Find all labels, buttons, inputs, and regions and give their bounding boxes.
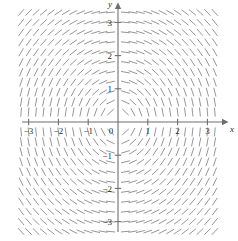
slope-mark: [34, 78, 37, 86]
slope-mark: [55, 30, 62, 36]
slope-mark: [41, 198, 47, 205]
slope-mark: [77, 59, 84, 64]
slope-mark: [26, 208, 32, 215]
slope-mark: [85, 89, 91, 96]
slope-mark: [197, 19, 203, 25]
slope-mark: [55, 229, 62, 234]
slope-mark: [198, 168, 202, 176]
slope-mark: [174, 10, 181, 15]
slope-mark: [48, 20, 55, 26]
slope-mark: [169, 128, 170, 137]
slope-mark: [207, 98, 209, 107]
slope-mark: [85, 70, 92, 75]
slope-mark: [144, 190, 152, 194]
slope-mark: [167, 59, 173, 66]
slope-mark: [106, 71, 115, 73]
slope-mark: [64, 148, 68, 156]
slope-mark: [121, 151, 130, 154]
slope-mark: [33, 19, 39, 25]
slope-mark: [205, 198, 210, 205]
slope-mark: [129, 61, 138, 64]
slope-mark: [27, 148, 29, 157]
slope-mark: [151, 11, 159, 15]
slope-mark: [55, 20, 62, 25]
slope-mark: [213, 188, 218, 196]
slope-mark: [159, 49, 166, 55]
slope-mark: [190, 49, 195, 56]
slope-mark: [77, 189, 85, 194]
slope-mark: [205, 178, 209, 186]
slope-mark: [55, 39, 62, 45]
slope-mark: [28, 108, 29, 117]
slope-mark: [73, 128, 75, 137]
slope-mark: [167, 168, 172, 175]
slope-mark: [197, 229, 204, 235]
slope-mark: [121, 32, 130, 33]
slope-mark: [159, 230, 167, 234]
slope-mark: [41, 178, 46, 186]
slope-mark: [121, 181, 130, 182]
slope-mark: [49, 168, 54, 176]
slope-mark: [91, 41, 100, 44]
slope-mark: [34, 168, 38, 176]
slope-mark: [106, 100, 114, 104]
slope-mark: [175, 178, 181, 185]
slope-mark: [131, 128, 135, 136]
slope-mark: [55, 199, 62, 205]
slope-mark: [174, 209, 181, 215]
slope-mark: [206, 68, 210, 76]
slope-mark: [48, 209, 55, 215]
slope-mark: [159, 59, 166, 65]
slope-mark: [92, 80, 99, 85]
slope-mark: [214, 148, 216, 157]
slope-mark: [189, 10, 196, 16]
slope-mark: [137, 159, 144, 164]
slope-mark: [84, 200, 92, 204]
slope-mark: [56, 168, 61, 175]
y-tick-label: 1: [108, 84, 113, 94]
slope-mark: [21, 108, 22, 117]
slope-mark: [72, 98, 75, 106]
slope-mark: [26, 48, 31, 56]
slope-mark: [159, 219, 167, 223]
slope-mark: [144, 230, 153, 233]
slope-mark: [106, 32, 115, 33]
x-tick-label: −2: [54, 126, 64, 136]
slope-mark: [182, 219, 189, 225]
slope-mark: [212, 9, 218, 16]
slope-mark: [145, 89, 151, 96]
slope-mark: [138, 98, 143, 105]
slope-mark: [70, 189, 77, 195]
slope-mark: [94, 108, 97, 116]
slope-mark: [161, 138, 164, 146]
slope-mark: [197, 208, 203, 215]
slope-mark: [192, 138, 194, 147]
slope-mark: [198, 68, 202, 76]
slope-mark: [93, 98, 98, 105]
slope-mark: [55, 188, 61, 195]
slope-mark: [91, 21, 100, 23]
slope-mark: [84, 21, 92, 24]
slope-mark: [166, 10, 174, 15]
slope-mark: [182, 49, 188, 56]
slope-mark: [136, 51, 144, 54]
x-axis-title: x: [229, 124, 234, 134]
slope-mark: [167, 30, 174, 35]
slope-mark: [65, 128, 66, 137]
slope-mark: [190, 58, 195, 66]
slope-mark: [175, 158, 179, 166]
slope-mark: [78, 88, 83, 96]
slope-mark: [70, 59, 77, 65]
slope-mark: [77, 50, 85, 55]
slope-mark: [212, 198, 217, 206]
slope-mark: [151, 40, 159, 45]
slope-mark: [212, 19, 218, 26]
slope-mark: [26, 198, 31, 205]
slope-mark: [214, 98, 215, 107]
slope-mark: [26, 19, 32, 26]
slope-mark: [121, 211, 130, 212]
slope-mark: [136, 190, 144, 193]
slope-mark: [70, 168, 76, 175]
slope-mark: [41, 58, 46, 66]
slope-mark: [181, 10, 188, 15]
